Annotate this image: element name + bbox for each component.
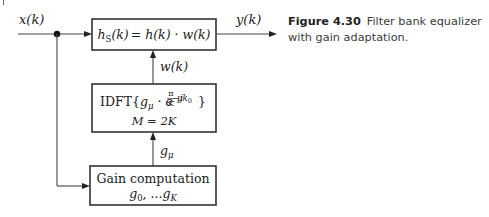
idft-block: IDFT{gμ · e−j π K μk0 } M = 2K (92, 84, 216, 132)
gain-signal-label: gμ (160, 143, 174, 160)
gain-input-arrow-icon (82, 183, 90, 189)
window-arrow-icon (150, 50, 156, 58)
gain-computation-range: g0, ...gK (129, 186, 177, 203)
figure-number: Figure 4.30 (288, 15, 361, 28)
output-signal-label: y(k) (235, 12, 261, 27)
idft-closing-brace: } (198, 94, 206, 109)
idft-parameter: M = 2K (131, 114, 178, 128)
input-signal-label: x(k) (19, 12, 44, 27)
idft-fraction-numerator: π (168, 89, 173, 98)
input-arrow-icon (84, 31, 92, 37)
idft-fraction-denominator: K (167, 99, 175, 108)
filter-formula: hS(k)= h(k) · w(k) (98, 27, 211, 44)
figure-caption: Figure 4.30Filter bank equalizer with ga… (288, 14, 488, 45)
window-signal-label: w(k) (160, 59, 188, 74)
gain-arrow-icon (150, 132, 156, 140)
gain-computation-block: Gain computation g0, ...gK (90, 166, 216, 205)
filter-block: hS(k)= h(k) · w(k) (92, 19, 216, 50)
output-arrow-icon (269, 31, 277, 37)
gain-computation-title: Gain computation (97, 171, 210, 186)
